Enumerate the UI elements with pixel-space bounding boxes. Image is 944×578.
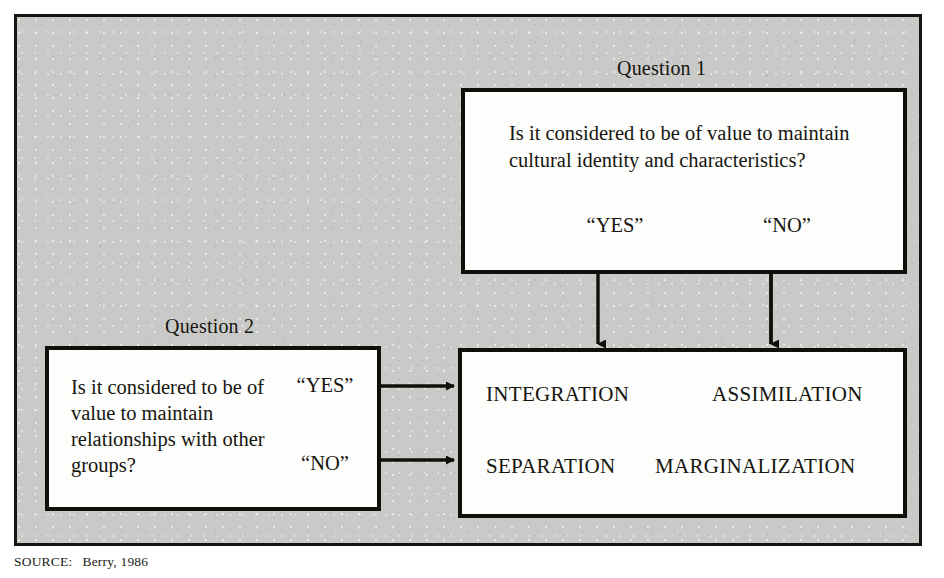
question2-answer-yes: “YES”: [277, 374, 373, 397]
question2-box: Is it considered to be of value to maint…: [45, 346, 381, 511]
source-note: SOURCE:Berry, 1986: [14, 554, 148, 570]
question1-box: Is it considered to be of value to maint…: [461, 88, 907, 274]
question1-answers: “YES” “NO”: [465, 214, 903, 242]
question1-answer-yes: “YES”: [555, 214, 675, 237]
question1-caption: Question 1: [617, 57, 706, 80]
source-note-label: SOURCE:: [14, 554, 72, 569]
question1-answer-no: “NO”: [727, 214, 847, 237]
figure-frame: Question 1 Is it considered to be of val…: [14, 14, 922, 546]
outcome-separation: SEPARATION: [486, 454, 615, 479]
outcomes-box: INTEGRATION ASSIMILATION SEPARATION MARG…: [458, 348, 907, 518]
outcome-assimilation: ASSIMILATION: [712, 382, 863, 407]
question2-answer-no: “NO”: [277, 452, 373, 475]
outcome-marginalization: MARGINALIZATION: [655, 454, 855, 479]
question1-prompt: Is it considered to be of value to maint…: [509, 120, 889, 173]
question2-caption: Question 2: [165, 315, 254, 338]
outcome-integration: INTEGRATION: [486, 382, 629, 407]
question2-prompt: Is it considered to be of value to maint…: [71, 374, 271, 478]
source-note-text: Berry, 1986: [82, 554, 148, 569]
